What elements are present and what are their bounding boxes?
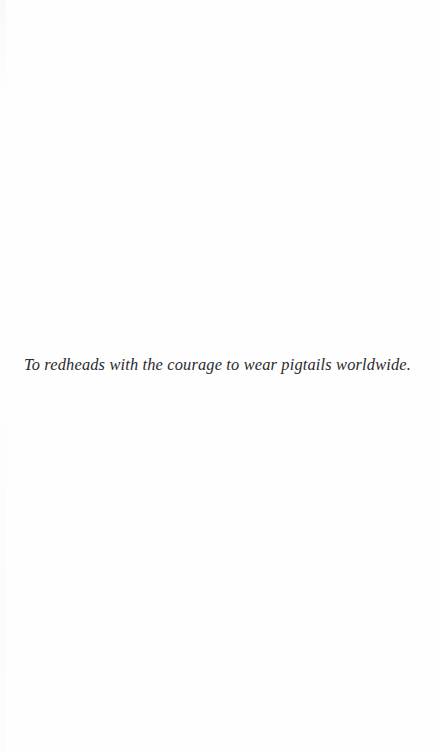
dedication-text: To redheads with the courage to wear pig… <box>24 355 411 375</box>
page-edge-scan-artifact <box>0 0 6 752</box>
dedication-block: To redheads with the courage to wear pig… <box>0 355 435 375</box>
dedication-page: To redheads with the courage to wear pig… <box>0 0 435 752</box>
